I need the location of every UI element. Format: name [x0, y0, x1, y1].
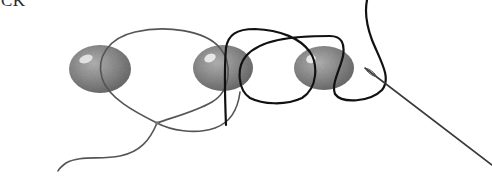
beading-illustration [0, 0, 492, 189]
needle [365, 68, 492, 165]
illustration-canvas: CK [0, 0, 492, 189]
bead-3 [294, 46, 354, 90]
